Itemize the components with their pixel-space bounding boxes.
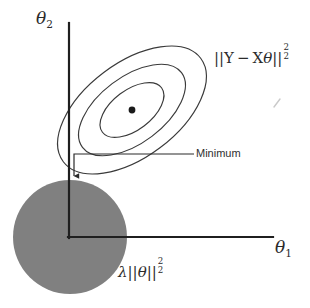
minimum-leader-line xyxy=(74,154,194,176)
scan-artifact-tick xyxy=(274,99,280,107)
diagram-canvas xyxy=(0,0,310,308)
ridge-regression-diagram: θ2 θ1 ||Y − Xθ||22 λ||θ||22 Minimum xyxy=(0,0,310,308)
contour-center-dot xyxy=(129,107,136,114)
